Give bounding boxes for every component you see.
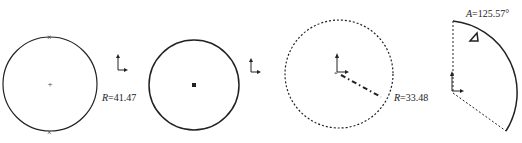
point-marker-icon: ×	[47, 33, 52, 42]
dashed-radius-line	[453, 93, 506, 131]
figure-circle-with-points: + × × R=41.47	[3, 33, 136, 137]
arc-outline	[453, 21, 517, 131]
figure-dashed-circle-radius: * R=33.48	[285, 20, 428, 128]
radius-label: R=41.47	[101, 92, 136, 103]
sketch-canvas: + × × R=41.47 * R=33.	[0, 0, 522, 143]
point-marker-icon: ×	[47, 128, 52, 137]
dashed-circle-outline	[285, 20, 393, 128]
origin-marker-icon: *	[334, 70, 338, 78]
angle-icon	[470, 33, 478, 41]
figure-circle-center-point	[149, 40, 261, 130]
center-point-icon	[192, 83, 196, 87]
center-cross-icon: +	[47, 79, 52, 89]
radius-label: R=33.48	[393, 92, 428, 103]
coordinate-axis-icon	[249, 58, 261, 74]
coordinate-axis-icon	[116, 54, 128, 72]
figure-arc-sector: A=125.57°	[450, 8, 517, 131]
coordinate-axis-icon	[450, 71, 464, 93]
radius-line	[341, 75, 381, 97]
angle-label: A=125.57°	[465, 8, 509, 19]
